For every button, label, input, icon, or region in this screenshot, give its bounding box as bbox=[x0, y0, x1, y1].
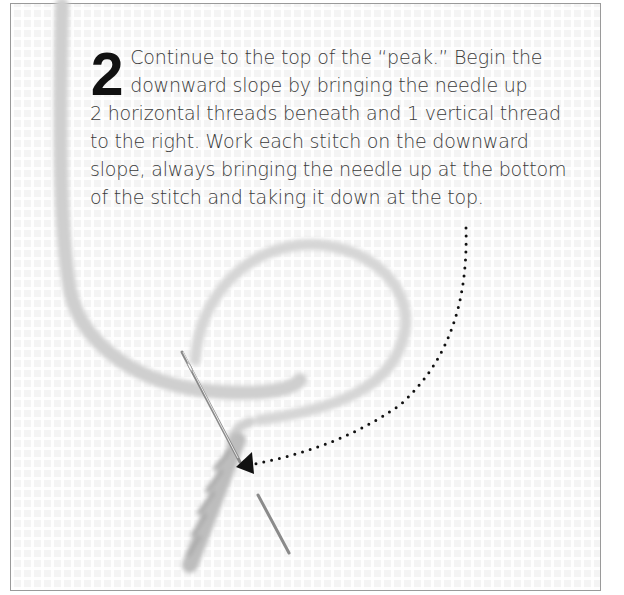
instruction-line: slope, always bringing the needle up at … bbox=[90, 155, 600, 183]
instruction-line: of the stitch and taking it down at the … bbox=[90, 183, 600, 211]
instruction-line: downward slope by bringing the needle up bbox=[90, 71, 600, 99]
instruction-text: 2 Continue to the top of the “peak.” Beg… bbox=[90, 43, 600, 211]
instruction-line: 2 horizontal threads beneath and 1 verti… bbox=[90, 99, 600, 127]
instruction-line: to the right. Work each stitch on the do… bbox=[90, 127, 600, 155]
step-number: 2 bbox=[91, 52, 124, 96]
instruction-line: Continue to the top of the “peak.” Begin… bbox=[90, 43, 600, 71]
worked-stitches-icon bbox=[188, 440, 238, 565]
dotted-arrow-icon bbox=[236, 228, 466, 474]
